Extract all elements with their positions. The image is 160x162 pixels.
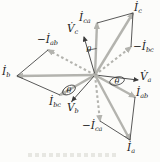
phasor-label-i-ca: İca: [78, 10, 91, 25]
phasor-label-i-bc: İbc: [48, 94, 61, 109]
phasor-label-i-a: İa: [126, 140, 135, 155]
theta-c-label: θ: [87, 45, 92, 54]
phasor-diagram-canvas: θθθİcİcaV̇c−İbc−İabİbİbcV̇bV̇aİab−İcaİa: [0, 0, 160, 162]
phasor-label-v-b: V̇b: [67, 101, 79, 115]
theta-b-label: θ: [67, 86, 72, 95]
phasor-neg-i-bc: [95, 47, 131, 75]
phasor-i-b: [17, 75, 95, 76]
phasor-label-i-c: İc: [133, 0, 142, 15]
phasor-label-i-b: İb: [1, 64, 10, 79]
phasor-diagram: θθθİcİcaV̇c−İbc−İabİbİbcV̇bV̇aİab−İcaİa: [0, 0, 160, 162]
cropped-caption-artifact: [28, 153, 118, 157]
phasor-label-i-ab: İab: [135, 85, 148, 100]
construction-line-iab-to-ia: [130, 97, 135, 140]
phasor-label-neg-i-bc: −İbc: [133, 39, 154, 54]
theta-a-label: θ: [115, 77, 120, 86]
phasor-label-neg-i-ca: −İca: [82, 118, 103, 133]
phasor-i-bc: [60, 75, 95, 95]
construction-line-negiab-to-ib: [17, 50, 48, 76]
phasor-label-v-c: V̇c: [67, 22, 79, 36]
phasor-label-neg-i-ab: −İab: [37, 32, 58, 47]
phasor-label-v-a: V̇a: [140, 70, 152, 84]
construction-line-ib-to-ibc: [17, 76, 60, 95]
